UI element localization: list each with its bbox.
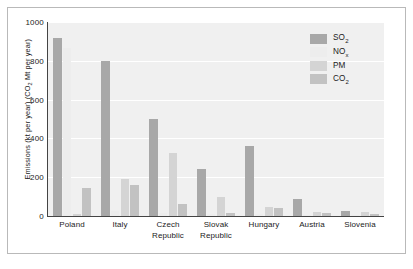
bar-group — [144, 22, 192, 216]
x-axis-tick-label: Slovenia — [336, 220, 384, 241]
bar — [197, 169, 206, 216]
x-axis-tick-label-line: Slovak — [192, 220, 240, 231]
legend-item[interactable]: PM — [310, 60, 349, 71]
bar — [274, 208, 283, 216]
legend-label-pre: CO — [333, 74, 346, 83]
legend-item[interactable]: SO2 — [310, 33, 349, 44]
bar-group — [96, 22, 144, 216]
bar-group — [48, 22, 96, 216]
x-axis-tick-label: Austria — [288, 220, 336, 241]
y-axis-tick-label: 1000 — [4, 18, 44, 27]
bar — [169, 153, 178, 216]
legend-label-pre: NO — [333, 47, 346, 56]
x-axis-tick-label-line: Hungary — [240, 220, 288, 231]
legend-label-sub: 2 — [346, 78, 350, 84]
y-axis-tick-label: 600 — [4, 95, 44, 104]
legend-swatch — [310, 47, 327, 57]
x-axis-tick-label-line: Italy — [96, 220, 144, 231]
bar — [265, 207, 274, 216]
bar — [101, 61, 110, 216]
legend-swatch — [310, 34, 327, 44]
chart-legend: SO2NOxPMCO2 — [310, 33, 349, 85]
x-axis-tick-label: Hungary — [240, 220, 288, 241]
x-axis-tick-label: SlovakRepublic — [192, 220, 240, 241]
legend-item[interactable]: CO2 — [310, 74, 349, 85]
legend-label: NOx — [333, 47, 349, 58]
x-axis-tick-label: Italy — [96, 220, 144, 241]
bar-group — [192, 22, 240, 216]
bar — [53, 38, 62, 216]
legend-label-pre: SO — [333, 33, 345, 42]
y-axis-tick-label: 400 — [4, 134, 44, 143]
x-axis-tick-label: CzechRepublic — [144, 220, 192, 241]
x-axis-tick-label: Poland — [48, 220, 96, 241]
x-axis-tick-labels: PolandItalyCzechRepublicSlovakRepublicHu… — [48, 220, 384, 241]
y-axis-tick-label: 0 — [4, 212, 44, 221]
bar — [82, 188, 91, 216]
bar — [121, 179, 130, 216]
x-axis-tick-label-line: Slovenia — [336, 220, 384, 231]
x-axis-tick-label-line: Czech — [144, 220, 192, 231]
bar — [217, 197, 226, 216]
bar — [293, 199, 302, 216]
bar — [178, 204, 187, 216]
legend-label-sub: 2 — [345, 38, 349, 44]
bar — [149, 119, 158, 216]
legend-swatch — [310, 74, 327, 84]
y-axis-tick-label: 800 — [4, 56, 44, 65]
x-axis-tick-label-line: Republic — [192, 231, 240, 242]
bar — [63, 48, 72, 216]
bar — [130, 185, 139, 216]
legend-item[interactable]: NOx — [310, 47, 349, 58]
y-axis-tick-labels: 02004006008001000 — [0, 22, 44, 216]
x-axis-tick-label-line: Poland — [48, 220, 96, 231]
chart-figure: Emissions (kt per year) (CO2 Mt per year… — [0, 0, 413, 269]
legend-label-sub: x — [346, 51, 349, 57]
x-axis-line — [47, 216, 384, 217]
legend-label: SO2 — [333, 33, 349, 44]
x-axis-tick-label-line: Austria — [288, 220, 336, 231]
y-axis-tick-label: 200 — [4, 173, 44, 182]
legend-label: CO2 — [333, 74, 349, 85]
bar — [245, 146, 254, 216]
legend-swatch — [310, 61, 327, 71]
y-axis-line — [47, 22, 48, 217]
bar-group — [240, 22, 288, 216]
legend-label: PM — [333, 61, 346, 70]
legend-label-pre: PM — [333, 61, 346, 70]
x-axis-tick-label-line: Republic — [144, 231, 192, 242]
